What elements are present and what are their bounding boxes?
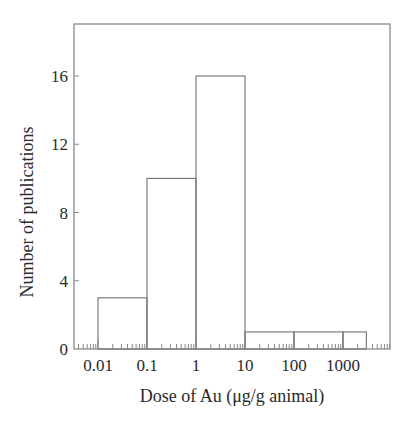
x-tick-label: 0.01	[83, 356, 113, 375]
y-tick-label: 0	[60, 340, 69, 359]
y-tick-label: 16	[51, 67, 68, 86]
histogram-bar	[98, 298, 147, 349]
x-tick-label: 1	[192, 356, 201, 375]
x-tick-label: 0.1	[136, 356, 157, 375]
x-tick-label: 1000	[326, 356, 360, 375]
x-tick-label: 100	[281, 356, 307, 375]
plot-frame	[74, 24, 390, 349]
histogram-bars	[98, 76, 366, 349]
y-tick-label: 12	[51, 135, 68, 154]
y-tick-label: 8	[60, 204, 69, 223]
histogram-bar	[147, 178, 196, 349]
x-axis-title: Dose of Au (μg/g animal)	[140, 386, 325, 407]
histogram-chart: 0.010.11101001000 0481216 Dose of Au (μg…	[0, 0, 411, 424]
y-axis-ticks: 0481216	[51, 67, 79, 359]
x-axis-ticks: 0.010.11101001000	[79, 339, 390, 375]
histogram-bar	[196, 76, 245, 349]
histogram-bar	[343, 332, 366, 349]
y-axis-title: Number of publications	[17, 127, 37, 298]
y-tick-label: 4	[60, 272, 69, 291]
x-tick-label: 10	[237, 356, 254, 375]
